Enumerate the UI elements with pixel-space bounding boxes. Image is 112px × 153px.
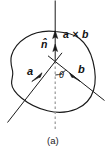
figure-caption: (a)	[47, 136, 59, 146]
vector-a-axis-extension	[55, 53, 62, 62]
vector-b-label: b	[78, 64, 85, 75]
normal-vector-label: n̂	[41, 39, 47, 50]
vector-a-label: a	[27, 66, 33, 77]
vector-b-axis-extension	[48, 56, 55, 62]
vector-cross-product-diagram	[0, 0, 112, 153]
angle-theta-label: θ	[59, 71, 64, 80]
cross-product-label: a × b	[63, 29, 89, 40]
figure-container: a × b n̂ a b θ (a)	[0, 0, 112, 153]
